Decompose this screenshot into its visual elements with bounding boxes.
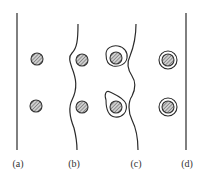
particle-a-bottom xyxy=(30,100,42,112)
particle-a-top xyxy=(31,53,43,65)
particle-d-bottom xyxy=(162,101,174,113)
label-d: (d) xyxy=(181,158,193,170)
panel-d xyxy=(159,13,186,150)
particle-d-top xyxy=(162,54,174,66)
label-b: (b) xyxy=(68,158,80,170)
label-c: (c) xyxy=(130,158,141,170)
wavy-boundary-c xyxy=(128,24,138,150)
wavy-boundary-b xyxy=(70,24,78,150)
particle-b-top xyxy=(76,54,88,66)
label-a: (a) xyxy=(12,158,23,170)
particle-c-top xyxy=(110,52,122,64)
panel-a xyxy=(17,13,43,150)
particle-c-bottom xyxy=(110,101,122,113)
panel-b xyxy=(70,24,88,150)
grain-boundary-particle-diagram: (a) (b) (c) (d) xyxy=(0,0,204,180)
panel-c xyxy=(105,24,138,150)
particle-b-bottom xyxy=(76,101,88,113)
